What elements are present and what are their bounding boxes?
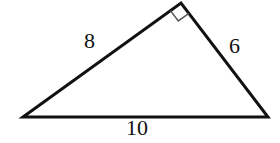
side-label-base: 10 bbox=[126, 117, 148, 139]
triangle-outline bbox=[23, 3, 268, 117]
side-label-left: 8 bbox=[84, 30, 95, 52]
side-label-right: 6 bbox=[229, 35, 240, 57]
